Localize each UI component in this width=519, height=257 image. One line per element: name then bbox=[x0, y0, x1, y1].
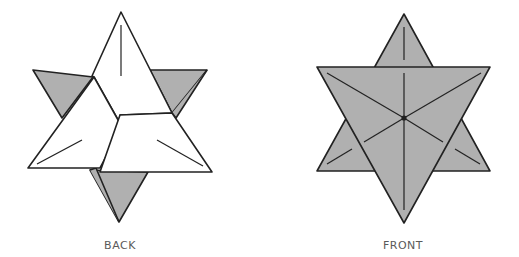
origami-diagram bbox=[0, 0, 519, 257]
front-label: FRONT bbox=[363, 239, 443, 252]
back-label: BACK bbox=[80, 239, 160, 252]
front-view-star bbox=[317, 14, 490, 223]
front-center-point bbox=[402, 116, 406, 120]
back-white-flap-right bbox=[100, 113, 212, 172]
back-view-star bbox=[28, 12, 212, 222]
